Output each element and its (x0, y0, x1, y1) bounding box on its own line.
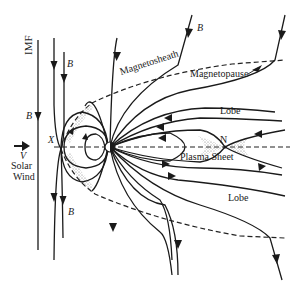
lobe-south-label: Lobe (228, 192, 249, 203)
b-label-upper: B (67, 58, 73, 69)
x-line-label: X (47, 134, 55, 145)
plasma-sheet-label: Plasma Sheet (180, 151, 234, 162)
magnetosphere-diagram: IMF B B B B V Solar Wind X Magnetosheath… (0, 0, 297, 295)
magnetopause-boundary (61, 60, 285, 238)
solar-wind-label-1: Solar (11, 160, 33, 171)
earth (105, 142, 115, 152)
lobe-north-label: Lobe (220, 105, 241, 116)
neutral-point (223, 145, 226, 148)
northern-lobe-field-lines (110, 15, 286, 147)
solar-wind-label-2: Wind (13, 171, 35, 182)
imf-label: IMF (22, 35, 34, 55)
n-label: N (220, 134, 227, 145)
magnetosheath-label: Magnetosheath (118, 48, 180, 77)
b-label-imf: B (26, 110, 32, 121)
southern-lobe-field-lines (109, 147, 285, 280)
magnetopause-label: Magnetopause (190, 68, 249, 79)
b-label-top: B (197, 22, 203, 33)
b-label-lower: B (68, 206, 74, 217)
imf-field-lines (35, 38, 68, 260)
